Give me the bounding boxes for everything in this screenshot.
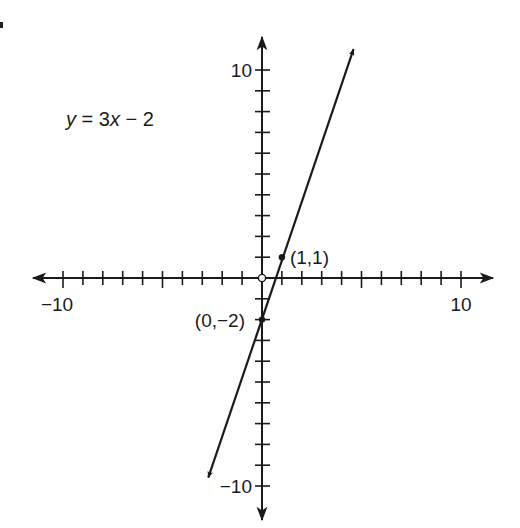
x-tick-label: −10 (41, 294, 73, 315)
origin-open-circle (258, 274, 265, 281)
y-tick-label: −10 (220, 476, 252, 497)
point-label: (0,−2) (195, 310, 245, 331)
point-label: (1,1) (290, 247, 329, 268)
y-tick-label: 10 (231, 60, 252, 81)
point-marker (259, 316, 265, 322)
equation-label: y = 3x − 2 (64, 108, 154, 130)
coordinate-plane: −101010−10 (1,1)(0,−2) y = 3x − 2 (0, 0, 520, 528)
point-marker (279, 254, 285, 260)
line-y-equals-3x-minus-2 (208, 49, 353, 477)
x-tick-label: 10 (450, 294, 471, 315)
plot-line (208, 49, 353, 477)
